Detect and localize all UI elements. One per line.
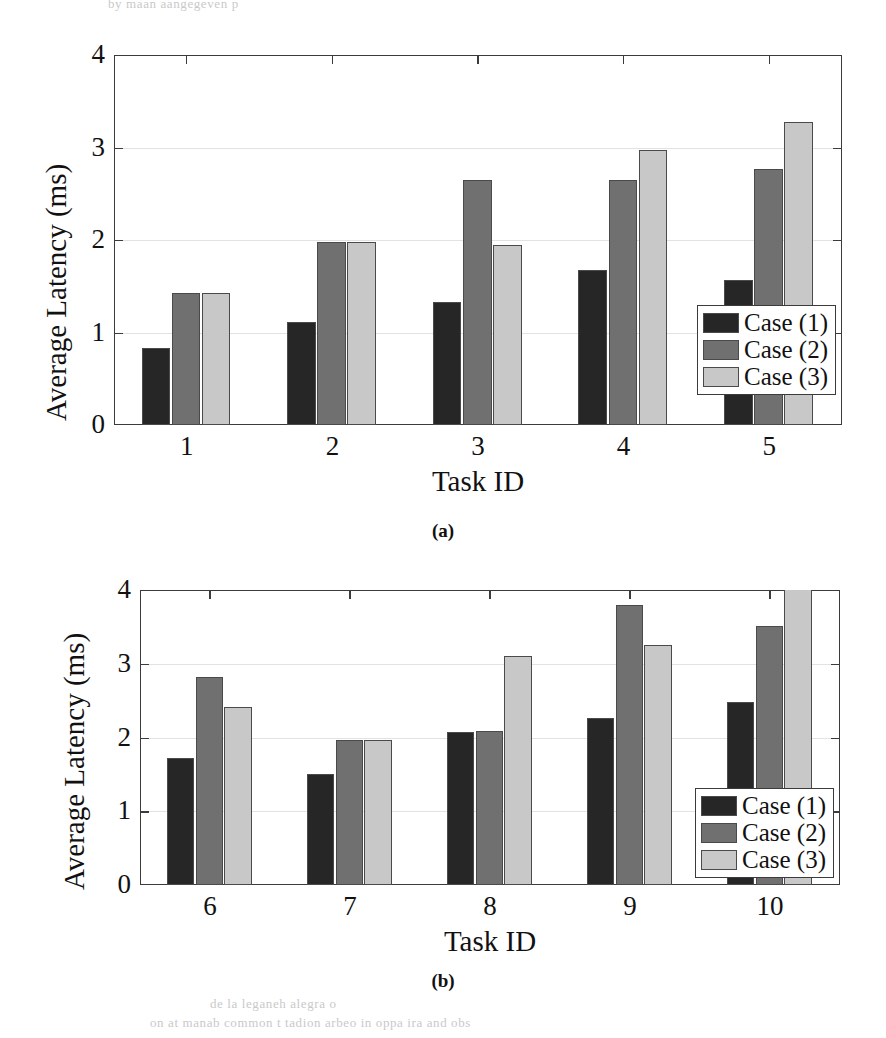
- x-tick-label: 5: [762, 433, 776, 460]
- bar: [463, 180, 492, 425]
- legend-item: Case (2): [703, 336, 828, 363]
- bar: [172, 293, 201, 425]
- y-tick-label: 2: [92, 226, 106, 253]
- legend-label-case-2: Case (2): [742, 820, 826, 845]
- bar: [433, 302, 462, 425]
- legend-swatch-case-2: [703, 340, 739, 360]
- bar: [493, 245, 522, 425]
- bar: [364, 740, 391, 885]
- x-tick-label: 1: [180, 433, 194, 460]
- y-tick-label: 4: [118, 576, 132, 603]
- bar: [196, 677, 223, 885]
- bar: [639, 150, 668, 425]
- chart-b-subcaption: (b): [0, 970, 886, 992]
- y-tick-label: 1: [92, 318, 106, 345]
- chart-a-figure: 0123412345 Task ID Average Latency (ms) …: [0, 28, 886, 528]
- figure-page: by maan aangegeven p 0123412345 Task ID …: [0, 0, 886, 1038]
- chart-a-yaxis-title: Average Latency (ms): [42, 164, 71, 421]
- x-tick-label: 4: [617, 433, 631, 460]
- y-tick-label: 2: [118, 723, 132, 750]
- y-tick-label: 0: [92, 411, 106, 438]
- bar: [142, 348, 171, 425]
- legend-swatch-case-2: [701, 823, 737, 843]
- legend-item: Case (2): [701, 819, 826, 846]
- scan-bleed-top: by maan aangegeven p: [108, 0, 239, 12]
- bar: [307, 774, 334, 885]
- x-tick-label: 9: [623, 893, 637, 920]
- chart-a-subcaption: (a): [0, 520, 886, 542]
- legend-swatch-case-3: [703, 367, 739, 387]
- legend-label-case-3: Case (3): [742, 847, 826, 872]
- y-tick-label: 0: [118, 871, 132, 898]
- legend-label-case-1: Case (1): [742, 793, 826, 818]
- bar: [447, 732, 474, 885]
- y-tick-label: 3: [118, 650, 132, 677]
- x-tick-label: 10: [757, 893, 784, 920]
- scan-bleed-bottom-2: on at manab common t tadion arbeo in opp…: [150, 1015, 471, 1031]
- bar: [587, 718, 614, 885]
- chart-b-yaxis-title: Average Latency (ms): [60, 633, 89, 890]
- y-tick-label: 4: [92, 41, 106, 68]
- legend-item: Case (3): [703, 363, 828, 390]
- legend-label-case-2: Case (2): [744, 337, 828, 362]
- bar: [644, 645, 671, 885]
- bar: [202, 293, 231, 425]
- chart-b-figure: 01234678910 Task ID Average Latency (ms)…: [0, 560, 886, 1030]
- bar: [224, 707, 251, 885]
- legend-label-case-1: Case (1): [744, 310, 828, 335]
- x-tick-label: 3: [471, 433, 485, 460]
- chart-b-plot-area: 01234678910 Task ID Average Latency (ms)…: [140, 590, 840, 885]
- legend-swatch-case-1: [701, 796, 737, 816]
- x-tick-label: 2: [326, 433, 340, 460]
- chart-a-legend: Case (1) Case (2) Case (3): [697, 305, 836, 395]
- bar: [336, 740, 363, 885]
- legend-item: Case (3): [701, 846, 826, 873]
- chart-b-xaxis-title: Task ID: [444, 927, 536, 956]
- bar: [504, 656, 531, 885]
- legend-swatch-case-3: [701, 850, 737, 870]
- bar: [287, 322, 316, 425]
- x-tick-label: 7: [343, 893, 357, 920]
- y-tick-label: 3: [92, 133, 106, 160]
- x-tick-label: 8: [483, 893, 497, 920]
- bar: [476, 731, 503, 885]
- bar: [609, 180, 638, 425]
- chart-a-xaxis-title: Task ID: [432, 467, 524, 496]
- chart-b-legend: Case (1) Case (2) Case (3): [695, 788, 834, 878]
- bar: [167, 758, 194, 885]
- bar: [578, 270, 607, 425]
- legend-swatch-case-1: [703, 313, 739, 333]
- x-tick-label: 6: [203, 893, 217, 920]
- bar: [317, 242, 346, 425]
- legend-item: Case (1): [701, 792, 826, 819]
- y-tick-label: 1: [118, 797, 132, 824]
- bar: [616, 605, 643, 885]
- scan-bleed-bottom-1: de la leganeh alegra o: [210, 996, 337, 1012]
- chart-a-plot-area: 0123412345 Task ID Average Latency (ms) …: [114, 55, 842, 425]
- bar: [347, 242, 376, 425]
- legend-item: Case (1): [703, 309, 828, 336]
- legend-label-case-3: Case (3): [744, 364, 828, 389]
